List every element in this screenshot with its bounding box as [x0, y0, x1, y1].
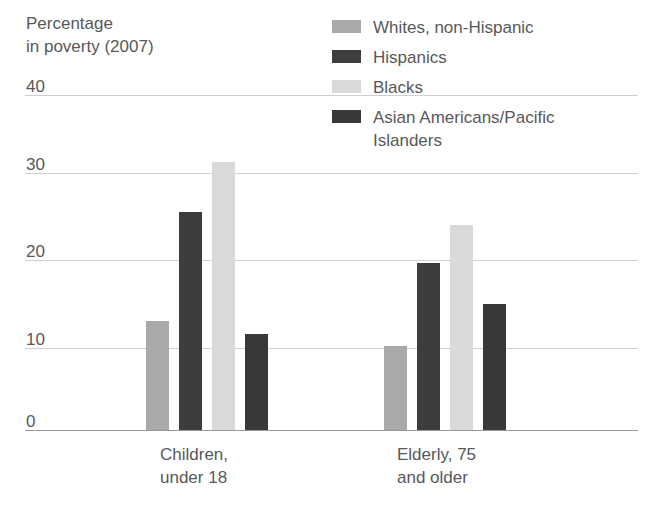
bar-elderly-hispanics [417, 263, 440, 430]
legend-item-whites: Whites, non-Hispanic [332, 16, 642, 39]
bar-elderly-asian [483, 304, 506, 430]
bar-elderly-blacks [450, 225, 473, 430]
category-label-elderly: Elderly, 75 and older [397, 443, 476, 489]
legend-item-hispanics: Hispanics [332, 46, 642, 69]
legend-label-whites: Whites, non-Hispanic [373, 16, 534, 39]
bar-children-whites [146, 321, 169, 430]
legend-label-hispanics: Hispanics [373, 46, 447, 69]
bar-children-hispanics [179, 212, 202, 430]
legend-item-blacks: Blacks [332, 76, 642, 99]
bar-children-asian [245, 334, 268, 430]
poverty-bar-chart: Percentage in poverty (2007) 40 30 20 10… [0, 0, 651, 508]
axis-baseline [25, 430, 638, 431]
legend-item-asian: Asian Americans/Pacific Islanders [332, 106, 642, 152]
legend-swatch-icon-hispanics [332, 50, 361, 63]
legend-swatch-icon-whites [332, 20, 361, 33]
bar-elderly-whites [384, 346, 407, 430]
legend-label-asian: Asian Americans/Pacific Islanders [373, 106, 554, 152]
category-label-children: Children, under 18 [160, 443, 228, 489]
legend: Whites, non-Hispanic Hispanics Blacks As… [332, 16, 642, 159]
legend-swatch-icon-asian [332, 110, 361, 123]
legend-label-blacks: Blacks [373, 76, 423, 99]
bar-children-blacks [212, 162, 235, 430]
legend-swatch-icon-blacks [332, 80, 361, 93]
